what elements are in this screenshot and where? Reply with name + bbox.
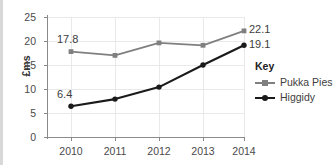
x-tick-label-2010: 2010 — [51, 145, 91, 157]
x-tick-label-2014: 2014 — [224, 145, 264, 157]
series-point-pukka-2014 — [242, 29, 247, 34]
y-tick-label-25: 25 — [14, 12, 36, 22]
series-point-pukka-2011 — [113, 53, 118, 58]
legend-swatch-pukka-pies — [255, 78, 275, 87]
y-tick-label-10: 10 — [14, 84, 36, 94]
series-point-higgidy-2010 — [68, 104, 73, 109]
x-tick-label-2012: 2012 — [139, 145, 179, 157]
x-tick-label-2011: 2011 — [95, 145, 135, 157]
x-tick-2011 — [115, 137, 116, 141]
legend-swatch-higgidy — [255, 93, 275, 102]
x-axis-line — [47, 137, 245, 138]
legend-item-pukka-pies[interactable]: Pukka Pies — [255, 77, 333, 88]
legend: Key Pukka Pies Higgidy — [255, 60, 333, 107]
data-label-pukka-last: 22.1 — [249, 23, 270, 35]
y-tick-label-15: 15 — [14, 60, 36, 70]
data-label-higgidy-last: 19.1 — [249, 38, 270, 50]
series-point-higgidy-2014 — [241, 43, 246, 48]
x-tick-2014 — [244, 137, 245, 141]
series-point-pukka-2012 — [157, 41, 162, 46]
legend-title: Key — [255, 60, 333, 72]
gridline-v-2014 — [244, 17, 245, 137]
series-point-higgidy-2013 — [200, 62, 205, 67]
legend-label-higgidy: Higgidy — [280, 92, 315, 103]
series-point-pukka-2010 — [69, 49, 74, 54]
series-point-pukka-2013 — [201, 43, 206, 48]
y-tick-label-5: 5 — [14, 108, 36, 118]
legend-item-higgidy[interactable]: Higgidy — [255, 92, 333, 103]
y-tick-label-20: 20 — [14, 36, 36, 46]
legend-label-pukka-pies: Pukka Pies — [280, 77, 333, 88]
series-point-higgidy-2012 — [156, 84, 161, 89]
x-tick-label-2013: 2013 — [183, 145, 223, 157]
data-label-pukka-first: 17.8 — [57, 33, 78, 45]
x-tick-2012 — [159, 137, 160, 141]
y-tick-label-0: 0 — [14, 132, 36, 142]
plot-area: 17.8 6.4 22.1 19.1 — [48, 17, 244, 137]
x-tick-2013 — [203, 137, 204, 141]
data-label-higgidy-first: 6.4 — [57, 88, 72, 100]
series-point-higgidy-2011 — [112, 96, 117, 101]
x-tick-2010 — [71, 137, 72, 141]
